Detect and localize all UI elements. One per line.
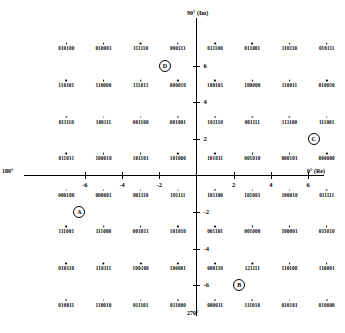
point-dot <box>289 79 291 81</box>
point-bit-label: 101101 <box>133 156 149 162</box>
point-bit-label: 111011 <box>133 83 148 89</box>
annotation-marker-d: D <box>159 60 171 72</box>
point-dot <box>289 262 291 264</box>
point-dot <box>326 116 328 118</box>
point-bit-label: 100001 <box>281 229 297 235</box>
point-bit-label: 011100 <box>207 46 223 52</box>
constellation-point: 011101 <box>133 299 149 308</box>
constellation-point: 101100 <box>207 189 223 198</box>
y-tick-label: -6 <box>204 281 209 288</box>
point-dot <box>65 79 67 81</box>
point-dot <box>103 226 105 228</box>
constellation-point: 110011 <box>282 79 298 88</box>
constellation-point: 000111 <box>170 43 186 52</box>
point-dot <box>251 79 253 81</box>
constellation-point: 010000 <box>319 299 335 308</box>
point-dot <box>251 153 253 155</box>
constellation-point: 010011 <box>58 299 74 308</box>
point-dot <box>65 189 67 191</box>
constellation-point: 000110 <box>207 262 223 271</box>
constellation-point: 011011 <box>59 153 75 162</box>
point-dot <box>214 299 216 301</box>
point-bit-label: 011001 <box>244 46 260 52</box>
constellation-point: 111100 <box>282 116 297 125</box>
point-bit-label: 000110 <box>207 266 223 272</box>
y-tick <box>193 249 200 250</box>
point-bit-label: 111001 <box>319 119 335 125</box>
point-bit-label: 110001 <box>319 266 335 272</box>
constellation-point: 101101 <box>133 153 149 162</box>
y-tick <box>193 102 200 103</box>
constellation-point: 101011 <box>207 153 223 162</box>
point-dot <box>66 153 68 155</box>
constellation-point: 110110 <box>282 43 298 52</box>
point-bit-label: 010011 <box>58 302 74 308</box>
point-bit-label: 000101 <box>281 156 297 162</box>
point-bit-label: 100010 <box>281 192 297 198</box>
constellation-point: 001111 <box>245 116 260 125</box>
point-bit-label: 100111 <box>96 119 112 125</box>
constellation-point: 010100 <box>58 43 74 52</box>
x-tick-label: -6 <box>82 181 87 188</box>
point-bit-label: 111100 <box>282 119 297 125</box>
constellation-point: 000101 <box>281 153 297 162</box>
point-bit-label: 100000 <box>244 83 260 89</box>
point-dot <box>252 299 254 301</box>
constellation-point: 010110 <box>58 262 74 271</box>
point-dot <box>289 116 291 118</box>
point-bit-label: 011110 <box>59 119 74 125</box>
point-dot <box>214 116 216 118</box>
point-bit-label: 000011 <box>207 302 223 308</box>
point-dot <box>326 299 328 301</box>
constellation-point: 111000 <box>96 226 112 235</box>
point-bit-label: 111110 <box>133 46 148 52</box>
point-bit-label: 001101 <box>207 229 223 235</box>
point-dot <box>140 153 142 155</box>
constellation-point: 101110 <box>207 116 223 125</box>
x-tick-label: 6 <box>306 181 309 188</box>
point-dot <box>177 262 179 264</box>
constellation-point: 100100 <box>133 262 149 271</box>
point-dot <box>66 116 68 118</box>
constellation-point: 011000 <box>170 299 186 308</box>
constellation-point: 001000 <box>244 226 260 235</box>
constellation-point: 101001 <box>244 189 260 198</box>
y-tick <box>193 212 200 213</box>
y-tick-label: 2 <box>204 135 207 142</box>
constellation-point: 001110 <box>133 189 149 198</box>
constellation-point: 011100 <box>207 43 223 52</box>
point-bit-label: 000000 <box>319 156 335 162</box>
constellation-point: 001101 <box>207 226 223 235</box>
point-bit-label: 000001 <box>95 192 111 198</box>
point-bit-label: 011010 <box>319 229 335 235</box>
constellation-point: 101111 <box>170 189 185 198</box>
x-tick <box>85 172 86 179</box>
point-bit-label: 100101 <box>207 83 223 89</box>
point-dot <box>103 116 105 118</box>
point-dot <box>177 79 179 81</box>
point-bit-label: 101100 <box>207 192 223 198</box>
point-bit-label: 010100 <box>58 46 74 52</box>
constellation-point: 100111 <box>96 116 112 125</box>
point-dot <box>214 262 216 264</box>
constellation-point: 111010 <box>245 299 261 308</box>
constellation-point: 100001 <box>281 226 297 235</box>
constellation-point: 110111 <box>96 262 111 271</box>
constellation-point: 100000 <box>244 79 260 88</box>
point-dot <box>289 189 291 191</box>
x-tick <box>234 172 235 179</box>
point-dot <box>103 43 105 45</box>
constellation-point: 010001 <box>95 43 111 52</box>
point-bit-label: 001010 <box>244 156 260 162</box>
point-bit-label: 101111 <box>170 192 185 198</box>
point-bit-label: 010000 <box>319 302 335 308</box>
point-dot <box>251 189 253 191</box>
point-dot <box>65 299 67 301</box>
point-bit-label: 011011 <box>59 156 75 162</box>
point-dot <box>326 226 328 228</box>
point-dot <box>103 79 105 81</box>
point-bit-label: 111010 <box>245 302 261 308</box>
x-tick <box>159 172 160 179</box>
point-dot <box>289 226 291 228</box>
axis-label-im: 90° (Im) <box>187 10 208 16</box>
